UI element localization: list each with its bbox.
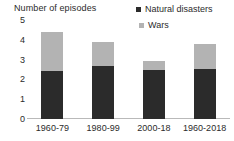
bar-segment-wars	[194, 44, 216, 69]
y-axis-title: Number of episodes	[14, 3, 96, 13]
y-axis-tick-label: 0	[14, 115, 25, 124]
bar-group	[92, 42, 114, 119]
bar-group	[143, 61, 165, 119]
legend-label: Natural disasters	[145, 5, 213, 14]
y-axis-tick-label: 1	[14, 95, 25, 104]
bar-segment-natural-disasters	[41, 71, 63, 120]
x-axis-tick-label: 2000-18	[137, 124, 170, 133]
x-axis-labels: 1960-791980-992000-181960-2018	[27, 124, 230, 138]
legend-item-natural-disasters: Natural disasters	[136, 5, 213, 14]
bar-segment-wars	[143, 61, 165, 70]
y-axis-tick-label: 5	[14, 16, 25, 25]
y-axis-tick-label: 2	[14, 75, 25, 84]
bar-group	[41, 32, 63, 119]
x-axis-tick-label: 1960-79	[36, 124, 69, 133]
bar-segment-natural-disasters	[92, 66, 114, 119]
bar-segment-natural-disasters	[194, 69, 216, 119]
x-axis-tick-label: 1980-99	[87, 124, 120, 133]
y-axis-tick-label: 4	[14, 35, 25, 44]
bar-segment-natural-disasters	[143, 70, 165, 120]
y-axis-tick-label: 3	[14, 55, 25, 64]
bar-segment-wars	[41, 32, 63, 71]
square-marker-icon	[136, 7, 141, 12]
bar-group	[194, 44, 216, 119]
x-axis-tick-label: 1960-2018	[183, 124, 226, 133]
plot-area	[27, 20, 230, 119]
bar-segment-wars	[92, 42, 114, 66]
stacked-bar-chart: Number of episodes Natural disasters War…	[0, 0, 234, 141]
